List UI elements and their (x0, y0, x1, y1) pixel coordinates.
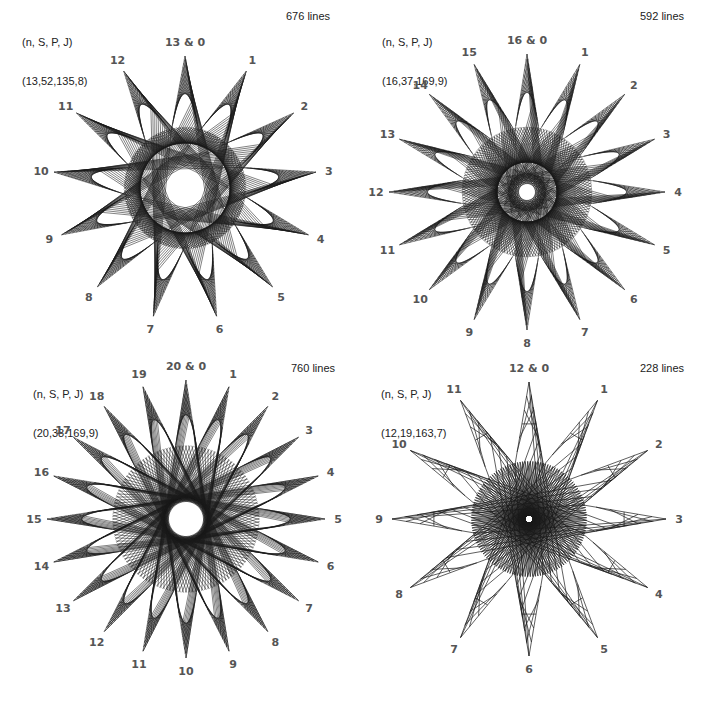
vertex-label: 10 (413, 292, 428, 305)
vertex-label: 16 & 0 (507, 34, 547, 47)
vertex-label: 1 (249, 53, 257, 66)
vertex-label: 17 (55, 423, 70, 436)
vertex-label: 7 (450, 642, 458, 655)
params-header: (n, S, P, J) (381, 388, 446, 401)
vertex-label: 9 (375, 513, 383, 526)
line-count: 228 lines (640, 362, 684, 374)
vertex-label: 1 (229, 368, 237, 381)
vertex-label: 2 (301, 99, 309, 112)
vertex-label: 11 (446, 383, 461, 396)
params-legend: (n, S, P, J) (13,52,135,8) (22, 10, 87, 114)
vertex-label: 5 (663, 243, 671, 256)
vertex-label: 13 (55, 602, 70, 615)
vertex-label: 4 (655, 588, 663, 601)
vertex-label: 4 (327, 466, 335, 479)
vertex-label: 15 (462, 46, 477, 59)
vertex-label: 8 (85, 290, 93, 303)
params-values: (13,52,135,8) (22, 75, 87, 88)
vertex-label: 20 & 0 (166, 360, 206, 373)
vertex-label: 19 (131, 368, 146, 381)
vertex-label: 3 (325, 164, 333, 177)
params-header: (n, S, P, J) (22, 36, 87, 49)
params-header: (n, S, P, J) (382, 36, 447, 49)
vertex-label: 10 (391, 438, 406, 451)
vertex-label: 5 (600, 642, 608, 655)
panel-2: (n, S, P, J) (16,37,169,9) 592 lines 16 … (357, 0, 714, 356)
vertex-label: 5 (277, 290, 285, 303)
vertex-label: 12 (89, 635, 104, 648)
vertex-label: 6 (525, 663, 533, 676)
vertex-label: 9 (465, 325, 473, 338)
vertex-label: 6 (216, 322, 224, 335)
vertex-label: 8 (523, 337, 531, 350)
line-count: 592 lines (640, 10, 684, 22)
panel-4: (n, S, P, J) (12,19,163,7) 228 lines 12 … (357, 356, 714, 712)
vertex-label: 12 (110, 53, 125, 66)
vertex-label: 11 (380, 243, 395, 256)
vertex-label: 12 & 0 (509, 362, 549, 375)
params-legend: (n, S, P, J) (16,37,169,9) (382, 10, 447, 114)
panel-3: (n, S, P, J) (20,38,169,9) 760 lines 20 … (0, 356, 357, 712)
panel-1: (n, S, P, J) (13,52,135,8) 676 lines 13 … (0, 0, 357, 356)
params-legend: (n, S, P, J) (20,38,169,9) (33, 362, 98, 466)
vertex-label: 1 (581, 46, 589, 59)
vertex-label: 10 (33, 164, 48, 177)
vertex-label: 12 (368, 186, 383, 199)
vertex-label: 9 (229, 657, 237, 670)
vertex-label: 7 (581, 325, 589, 338)
vertex-label: 15 (26, 513, 41, 526)
vertex-label: 11 (131, 657, 146, 670)
vertex-label: 13 (380, 128, 395, 141)
vertex-label: 8 (395, 588, 403, 601)
vertex-label: 4 (674, 186, 682, 199)
vertex-label: 4 (317, 233, 325, 246)
line-count: 676 lines (286, 10, 330, 22)
vertex-label: 3 (305, 423, 313, 436)
vertex-label: 3 (663, 128, 671, 141)
vertex-label: 16 (34, 466, 49, 479)
vertex-label: 14 (34, 559, 49, 572)
vertex-label: 18 (89, 390, 104, 403)
vertex-label: 3 (675, 513, 683, 526)
vertex-label: 14 (413, 79, 428, 92)
vertex-label: 13 & 0 (165, 36, 205, 49)
vertex-label: 7 (305, 602, 313, 615)
vertex-label: 2 (630, 79, 638, 92)
vertex-label: 2 (655, 438, 663, 451)
vertex-label: 2 (272, 390, 280, 403)
vertex-label: 10 (178, 665, 193, 678)
vertex-label: 6 (327, 559, 335, 572)
vertex-label: 7 (146, 322, 154, 335)
string-lines (54, 56, 316, 316)
vertex-label: 8 (272, 635, 280, 648)
vertex-label: 9 (46, 233, 54, 246)
vertex-label: 11 (58, 99, 73, 112)
vertex-label: 1 (600, 383, 608, 396)
line-count: 760 lines (291, 362, 335, 374)
vertex-label: 6 (630, 292, 638, 305)
vertex-label: 5 (334, 513, 342, 526)
